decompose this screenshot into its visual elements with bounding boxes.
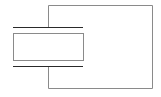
small-box: [14, 34, 84, 61]
diagram-canvas: [0, 0, 161, 97]
